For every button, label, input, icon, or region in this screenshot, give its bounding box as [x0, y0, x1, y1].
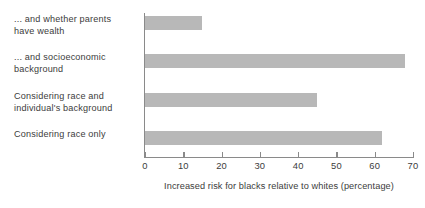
x-tick-label-20: 20: [207, 160, 237, 171]
x-tick-50: [336, 152, 337, 158]
y-axis-line: [144, 13, 145, 158]
x-tick-60: [375, 152, 376, 158]
bar-parents-wealth: [145, 16, 202, 30]
category-label-socioeconomic: ... and socioeconomic background: [14, 51, 141, 76]
x-tick-label-10: 10: [168, 160, 198, 171]
category-label-race-only: Considering race only: [14, 128, 141, 140]
category-axis-labels: ... and whether parents have wealth ... …: [0, 0, 141, 158]
x-tick-30: [260, 152, 261, 158]
x-tick-40: [298, 152, 299, 158]
x-axis-title: Increased risk for blacks relative to wh…: [145, 181, 413, 191]
plot-area: [145, 10, 413, 158]
x-tick-0: [145, 152, 146, 158]
bar-race-only: [145, 131, 382, 145]
x-tick-label-50: 50: [321, 160, 351, 171]
category-label-parents-wealth: ... and whether parents have wealth: [14, 13, 141, 38]
x-tick-label-30: 30: [245, 160, 275, 171]
x-tick-label-40: 40: [283, 160, 313, 171]
bar-chart: ... and whether parents have wealth ... …: [0, 0, 425, 208]
x-tick-label-70: 70: [398, 160, 425, 171]
category-label-race-and-background: Considering race and individual's backgr…: [14, 90, 141, 115]
x-tick-label-60: 60: [360, 160, 390, 171]
x-tick-70: [413, 152, 414, 158]
x-tick-10: [183, 152, 184, 158]
x-tick-20: [222, 152, 223, 158]
bar-race-and-background: [145, 93, 317, 107]
x-tick-label-0: 0: [130, 160, 160, 171]
bar-socioeconomic: [145, 54, 405, 68]
